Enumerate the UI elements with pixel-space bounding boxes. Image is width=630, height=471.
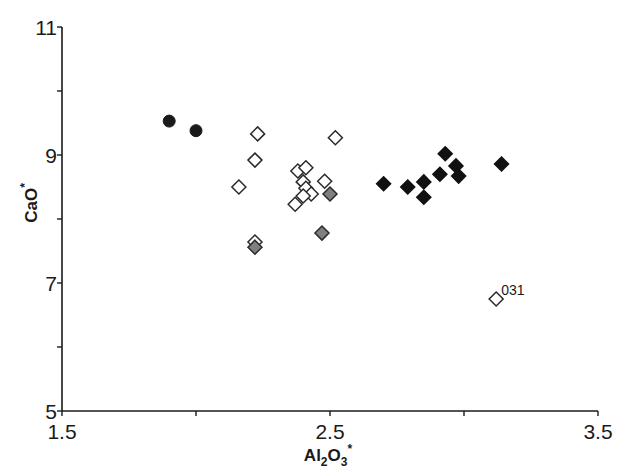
data-point-circle — [163, 115, 175, 127]
data-point-diamond — [318, 174, 332, 188]
data-point-diamond — [417, 190, 431, 204]
data-points — [163, 115, 508, 306]
x-axis-title: Al2O3* — [304, 442, 353, 469]
y-tick-label: 9 — [45, 144, 57, 167]
data-point-diamond — [328, 131, 342, 145]
annotations: 031 — [501, 282, 525, 298]
data-point-diamond — [248, 153, 262, 167]
data-point-diamond — [433, 167, 447, 181]
y-axis-title: CaO* — [18, 183, 41, 223]
point-label: 031 — [501, 282, 525, 298]
data-point-diamond — [315, 226, 329, 240]
data-point-diamond — [232, 180, 246, 194]
x-tick-label: 1.5 — [47, 420, 76, 443]
data-point-circle — [190, 125, 202, 137]
x-tick-label: 3.5 — [583, 420, 612, 443]
data-point-diamond — [251, 127, 265, 141]
data-point-diamond — [323, 187, 337, 201]
y-tick-label: 11 — [35, 16, 57, 39]
data-point-diamond — [438, 147, 452, 161]
data-point-diamond — [417, 175, 431, 189]
y-tick-label: 7 — [45, 272, 57, 295]
data-point-diamond — [495, 157, 509, 171]
x-tick-label: 2.5 — [315, 420, 344, 443]
scatter-chart: 579111.52.53.5 031 CaO* Al2O3* — [0, 0, 630, 471]
data-point-diamond — [401, 180, 415, 194]
data-point-diamond — [377, 177, 391, 191]
